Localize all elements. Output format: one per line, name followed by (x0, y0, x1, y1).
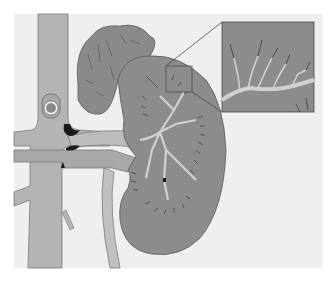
aorta-cross-section (42, 94, 60, 118)
kidney-diagram (0, 0, 334, 296)
magnified-inset (222, 22, 314, 112)
